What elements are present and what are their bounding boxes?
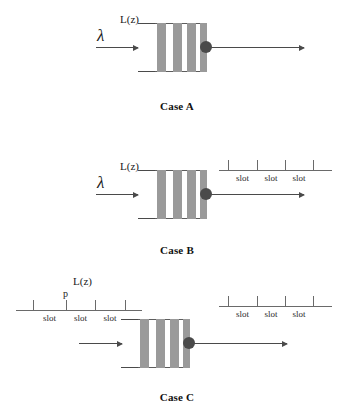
case-a-panel: λ L(z) Case A bbox=[0, 0, 354, 140]
case-c-queue-bar bbox=[156, 319, 165, 368]
case-c-output-slot-label: slot bbox=[257, 309, 285, 319]
case-a-lambda-label: λ bbox=[97, 27, 104, 44]
queueing-cases-figure: λ L(z) Case A λ L(z) bbox=[0, 0, 354, 412]
case-a-queue-bar bbox=[187, 23, 196, 72]
case-c-input-timeline-axis bbox=[16, 310, 142, 311]
case-b-caption: Case B bbox=[0, 244, 354, 256]
case-c-service-label: L(z) bbox=[73, 276, 92, 287]
case-b-service-label: L(z) bbox=[120, 161, 139, 172]
case-a-service-label: L(z) bbox=[120, 14, 139, 25]
case-c-departure-arrow bbox=[194, 343, 287, 344]
case-b-panel: λ L(z) slot slot bbox=[0, 140, 354, 268]
case-a-departure-arrow bbox=[211, 47, 304, 48]
case-b-output-timeline-tick bbox=[313, 160, 314, 171]
case-b-output-timeline-tick bbox=[285, 160, 286, 171]
case-c-input-slot-label: slot bbox=[66, 313, 95, 323]
case-a-caption: Case A bbox=[0, 100, 354, 112]
case-c-input-timeline: slot slot slot bbox=[16, 288, 142, 322]
case-b-output-timeline: slot slot slot bbox=[219, 152, 332, 182]
case-a-queue-bar bbox=[157, 23, 166, 72]
case-c-output-slot-label: slot bbox=[228, 309, 257, 319]
case-b-box-inlet-bottom bbox=[138, 218, 155, 219]
case-b-output-timeline-axis bbox=[219, 170, 332, 171]
case-c-input-timeline-tick bbox=[95, 300, 96, 311]
case-c-output-timeline: slot slot slot bbox=[219, 288, 332, 318]
case-c-panel: slot slot slot p L(z) bbox=[0, 268, 354, 412]
case-c-output-timeline-tick bbox=[313, 296, 314, 307]
case-c-arrival-arrow bbox=[79, 343, 122, 344]
case-b-arrival-arrow bbox=[96, 194, 138, 195]
case-b-queue-bar bbox=[173, 170, 182, 219]
case-b-output-slot-label: slot bbox=[257, 173, 285, 183]
case-c-box-inlet-top bbox=[121, 319, 138, 320]
case-b-output-timeline-tick bbox=[257, 160, 258, 171]
case-b-output-slot-label: slot bbox=[228, 173, 257, 183]
case-b-output-timeline-tick bbox=[228, 160, 229, 171]
case-c-input-slot-label: slot bbox=[95, 313, 125, 323]
case-c-input-timeline-tick bbox=[125, 300, 126, 311]
case-c-output-timeline-tick bbox=[285, 296, 286, 307]
case-c-probability-label: p bbox=[63, 289, 68, 299]
case-c-queue-bar bbox=[170, 319, 179, 368]
case-c-box-inlet-bottom bbox=[121, 367, 138, 368]
case-b-queue-bar bbox=[157, 170, 166, 219]
case-c-output-timeline-tick bbox=[228, 296, 229, 307]
case-a-box-inlet-top bbox=[138, 23, 155, 24]
case-c-input-timeline-tick bbox=[66, 300, 67, 311]
case-c-input-timeline-tick bbox=[33, 300, 34, 311]
case-b-lambda-label: λ bbox=[97, 174, 104, 191]
case-b-box-inlet-top bbox=[138, 170, 155, 171]
case-b-departure-arrow bbox=[211, 194, 304, 195]
case-a-arrival-arrow bbox=[96, 47, 138, 48]
case-c-caption: Case C bbox=[0, 391, 354, 403]
case-b-queue-bar bbox=[187, 170, 196, 219]
case-b-output-slot-label: slot bbox=[285, 173, 313, 183]
case-a-box-inlet-bottom bbox=[138, 71, 155, 72]
case-c-queue-bar bbox=[140, 319, 149, 368]
case-c-output-timeline-axis bbox=[219, 306, 332, 307]
case-c-output-timeline-tick bbox=[257, 296, 258, 307]
case-c-input-slot-label: slot bbox=[33, 313, 66, 323]
case-c-output-slot-label: slot bbox=[285, 309, 313, 319]
case-a-queue-bar bbox=[173, 23, 182, 72]
